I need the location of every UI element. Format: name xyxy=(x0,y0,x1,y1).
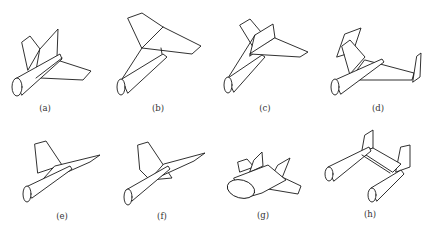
fuselage-left xyxy=(328,147,371,181)
panel-label-b: (b) xyxy=(152,103,164,113)
aircraft-c: (c) xyxy=(224,19,308,113)
intake-ellipse xyxy=(23,186,31,202)
aircraft-f: (f) xyxy=(124,142,205,221)
fuselage xyxy=(122,54,167,93)
panel-label-e: (e) xyxy=(56,211,68,221)
intake-ellipse-left xyxy=(325,167,333,181)
aircraft-b: (b) xyxy=(117,13,201,113)
intake-ellipse xyxy=(117,79,125,95)
wingtip-fin xyxy=(413,53,421,82)
aircraft-h: (h) xyxy=(325,130,410,219)
aircraft-e: (e) xyxy=(23,141,100,221)
panel-label-a: (a) xyxy=(39,103,51,113)
fuselage xyxy=(228,55,265,92)
panel-label-g: (g) xyxy=(257,210,269,220)
intake-ellipse xyxy=(12,78,22,96)
fuselage xyxy=(26,166,72,198)
figure-canvas: (a) (b) (c) (d) (e) xyxy=(0,0,431,235)
intake-ellipse xyxy=(224,77,232,93)
intake-ellipse xyxy=(124,189,132,205)
vertical-fin-right xyxy=(396,145,410,172)
intake-ellipse xyxy=(331,79,339,95)
aircraft-d: (d) xyxy=(331,28,421,113)
figure-caption xyxy=(0,226,431,235)
aircraft-a: (a) xyxy=(12,29,91,113)
panel-label-d: (d) xyxy=(372,103,384,113)
panel-label-h: (h) xyxy=(364,209,376,219)
aircraft-g: (g) xyxy=(225,152,301,220)
panel-label-f: (f) xyxy=(157,211,167,221)
wing xyxy=(128,13,201,54)
panel-label-c: (c) xyxy=(259,103,270,113)
intake-ellipse-right xyxy=(368,188,376,202)
